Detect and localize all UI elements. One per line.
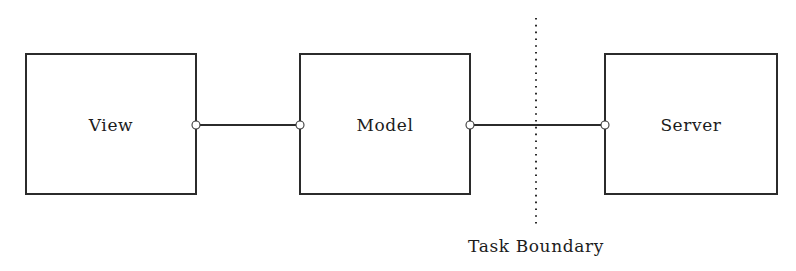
port-model-left[interactable]: [296, 121, 304, 129]
node-server[interactable]: Server: [605, 54, 777, 194]
port-view-right[interactable]: [192, 121, 200, 129]
node-model[interactable]: Model: [300, 54, 470, 194]
port-model-right[interactable]: [466, 121, 474, 129]
port-server-left[interactable]: [601, 121, 609, 129]
node-label-view: View: [88, 115, 133, 135]
diagram-svg: View Model Server Task Boundary: [0, 0, 796, 271]
node-view[interactable]: View: [26, 54, 196, 194]
task-boundary-label: Task Boundary: [468, 236, 604, 256]
node-label-model: Model: [356, 115, 413, 135]
node-label-server: Server: [660, 115, 721, 135]
diagram-canvas: View Model Server Task Boundary: [0, 0, 796, 271]
